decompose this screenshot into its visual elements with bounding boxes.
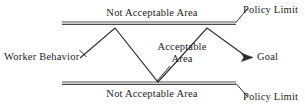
label-acceptable-area-line2: Area <box>171 53 192 64</box>
lower-policy-limit-rail <box>62 82 236 84</box>
leader-line-acceptable-area <box>157 66 170 81</box>
label-not-acceptable-area-top: Not Acceptable Area <box>106 7 197 18</box>
label-worker-behavior: Worker Behavior <box>4 51 79 62</box>
upper-policy-limit-rail <box>62 22 236 24</box>
goal-arrowhead-icon <box>242 53 254 61</box>
label-goal: Goal <box>257 51 278 62</box>
label-policy-limit-top: Policy Limit <box>243 4 298 15</box>
diagram-canvas: Not Acceptable Area Not Acceptable Area … <box>0 0 305 110</box>
label-acceptable-area-line1: Acceptable <box>157 41 206 52</box>
label-not-acceptable-area-bottom: Not Acceptable Area <box>106 88 197 99</box>
label-policy-limit-bottom: Policy Limit <box>243 91 298 102</box>
